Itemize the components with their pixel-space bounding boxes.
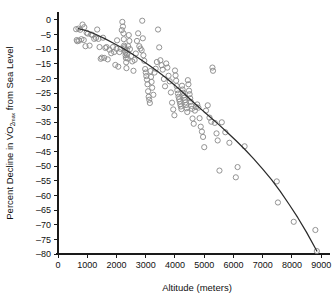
x-tick-label: 0: [55, 260, 60, 270]
data-point: [117, 49, 122, 54]
y-tick-label: –45: [36, 147, 51, 157]
fit-line: [78, 29, 316, 251]
y-axis-title: Percent Decline in V̇O2max from Sea Leve…: [4, 46, 16, 219]
data-point: [169, 100, 174, 105]
data-point: [151, 92, 156, 97]
x-tick-label: 9000: [311, 260, 331, 270]
y-tick-labels: 0–5–10–15–20–25–30–35–40–45–50–55–60–65–…: [36, 15, 51, 259]
data-point: [217, 168, 222, 173]
data-point: [140, 36, 145, 41]
svg-text:Percent Decline in V̇O2max fro: Percent Decline in V̇O2max from Sea Leve…: [4, 46, 16, 219]
data-point: [150, 85, 155, 90]
data-point: [233, 175, 238, 180]
y-axis-title-subsub: max: [10, 112, 16, 122]
data-point: [155, 27, 160, 32]
scatter-plot: 0100020003000400050006000700080009000 0–…: [0, 0, 336, 297]
data-point: [121, 37, 126, 42]
x-tick-label: 7000: [253, 260, 273, 270]
data-point: [198, 124, 203, 129]
y-axis-title-prefix: Percent Decline in V: [4, 133, 15, 220]
y-tick-label: –55: [36, 176, 51, 186]
data-point: [205, 103, 210, 108]
x-tick-label: 5000: [194, 260, 214, 270]
x-tick-labels: 0100020003000400050006000700080009000: [55, 260, 331, 270]
y-axis-title-suffix: from Sea Level: [4, 46, 15, 113]
chart-figure: 0100020003000400050006000700080009000 0–…: [0, 0, 336, 297]
data-point: [149, 79, 154, 84]
x-tick-label: 8000: [282, 260, 302, 270]
data-point: [97, 44, 102, 49]
y-tick-label: –60: [36, 191, 51, 201]
y-tick-label: –10: [36, 44, 51, 54]
x-axis-title: Altitude (meters): [162, 282, 232, 293]
y-axis-title-o: O: [4, 126, 15, 133]
data-point: [200, 134, 205, 139]
y-tick-label: –20: [36, 74, 51, 84]
data-point: [162, 84, 167, 89]
y-tick-label: 0: [46, 15, 51, 25]
data-point: [190, 116, 195, 121]
data-point: [173, 73, 178, 78]
data-point: [202, 145, 207, 150]
data-points-group: [74, 18, 320, 254]
data-point: [215, 138, 220, 143]
data-point: [199, 129, 204, 134]
data-point: [227, 140, 232, 145]
x-tick-label: 1000: [77, 260, 97, 270]
y-tick-label: –80: [36, 249, 51, 259]
data-point: [140, 18, 145, 23]
data-point: [174, 78, 179, 83]
y-tick-label: –50: [36, 161, 51, 171]
data-point: [197, 116, 202, 121]
y-tick-label: –40: [36, 132, 51, 142]
y-tick-label: –15: [36, 59, 51, 69]
data-point: [166, 73, 171, 78]
x-tick-label: 2000: [106, 260, 126, 270]
data-point: [219, 120, 224, 125]
x-tick-label: 4000: [165, 260, 185, 270]
data-point: [157, 45, 162, 50]
y-tick-label: –35: [36, 117, 51, 127]
data-point: [210, 68, 215, 73]
y-tick-label: –25: [36, 88, 51, 98]
data-point: [147, 100, 152, 105]
y-tick-label: –75: [36, 235, 51, 245]
data-point: [291, 219, 296, 224]
x-tick-label: 3000: [136, 260, 156, 270]
y-tick-label: –70: [36, 220, 51, 230]
data-point: [141, 53, 146, 58]
y-tick-label: –65: [36, 205, 51, 215]
data-point: [127, 38, 132, 43]
data-point: [131, 68, 136, 73]
y-tick-label: –5: [41, 30, 51, 40]
y-tick-label: –30: [36, 103, 51, 113]
data-point: [171, 107, 176, 112]
data-point: [275, 200, 280, 205]
data-point: [235, 164, 240, 169]
data-point: [134, 38, 139, 43]
x-tick-label: 6000: [223, 260, 243, 270]
ticks-group: [54, 20, 321, 258]
data-point: [124, 66, 129, 71]
data-point: [126, 32, 131, 37]
data-point: [136, 31, 141, 36]
data-point: [114, 38, 119, 43]
data-point: [172, 68, 177, 73]
data-point: [191, 121, 196, 126]
data-point: [185, 109, 190, 114]
data-point: [172, 113, 177, 118]
data-point: [214, 131, 219, 136]
data-point: [139, 48, 144, 53]
data-point: [95, 27, 100, 32]
data-point: [168, 90, 173, 95]
data-point: [313, 227, 318, 232]
